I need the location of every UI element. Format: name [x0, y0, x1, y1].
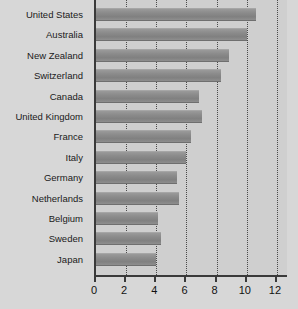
bar [96, 28, 247, 41]
bar [96, 49, 229, 62]
bar [96, 171, 177, 184]
bar-row [96, 192, 287, 205]
category-label: Japan [0, 253, 88, 266]
category-label: Australia [0, 28, 88, 41]
category-label: Sweden [0, 232, 88, 245]
bar-row [96, 151, 287, 164]
bar [96, 130, 191, 143]
category-label: New Zealand [0, 49, 88, 62]
category-label: France [0, 130, 88, 143]
bar-row [96, 8, 287, 21]
bar-row [96, 253, 287, 266]
x-tick-mark [215, 277, 217, 282]
bar-series [96, 8, 287, 273]
bar-chart: United StatesAustraliaNew ZealandSwitzer… [0, 0, 298, 309]
bar-row [96, 49, 287, 62]
x-tick-label: 12 [269, 284, 281, 296]
bar-row [96, 28, 287, 41]
bar [96, 8, 256, 21]
category-label: Italy [0, 151, 88, 164]
bar-row [96, 130, 287, 143]
plot-area [94, 0, 287, 277]
bar-row [96, 232, 287, 245]
bar-row [96, 69, 287, 82]
category-label: United States [0, 8, 88, 21]
category-axis-labels: United StatesAustraliaNew ZealandSwitzer… [0, 8, 88, 273]
x-tick-mark [275, 277, 277, 282]
bar-row [96, 110, 287, 123]
category-label: Switzerland [0, 69, 88, 82]
bar [96, 90, 199, 103]
bar [96, 110, 202, 123]
bar [96, 232, 161, 245]
bar [96, 151, 186, 164]
bar-row [96, 90, 287, 103]
x-tick-mark [245, 277, 247, 282]
bar [96, 212, 158, 225]
x-tick-label: 8 [212, 284, 218, 296]
bar-row [96, 171, 287, 184]
category-label: United Kingdom [0, 110, 88, 123]
x-tick-label: 10 [239, 284, 251, 296]
x-tick-label: 2 [121, 284, 127, 296]
category-label: Belgium [0, 212, 88, 225]
category-label: Canada [0, 90, 88, 103]
x-tick-mark [184, 277, 186, 282]
x-tick-mark [154, 277, 156, 282]
x-tick-label: 6 [181, 284, 187, 296]
x-tick-mark [94, 277, 96, 282]
x-axis: 024681012 [94, 277, 287, 309]
bar [96, 69, 221, 82]
x-tick-label: 4 [151, 284, 157, 296]
x-tick-mark [124, 277, 126, 282]
category-label: Germany [0, 171, 88, 184]
x-tick-label: 0 [91, 284, 97, 296]
category-label: Netherlands [0, 192, 88, 205]
bar-row [96, 212, 287, 225]
bar [96, 192, 179, 205]
bar [96, 253, 156, 266]
